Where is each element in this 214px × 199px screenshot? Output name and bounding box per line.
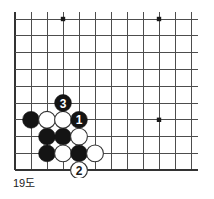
stone-disc [71,145,88,162]
stone-disc [23,111,40,128]
go-diagram-figure: 312 19도 [0,0,214,199]
go-board-canvas[interactable]: 312 [0,0,214,178]
star-point [61,17,65,21]
go-stone-white[interactable] [39,111,56,128]
move-number-label: 2 [76,164,83,178]
go-stone-white[interactable] [55,145,72,162]
go-stone-black[interactable] [39,145,56,162]
stone-disc [71,128,88,145]
stone-disc [55,111,72,128]
star-point [157,118,161,122]
go-stone-white-move-2[interactable]: 2 [71,162,88,178]
go-stone-white[interactable] [55,111,72,128]
stone-disc [39,111,56,128]
figure-caption: 19도 [13,177,35,190]
stone-disc [55,145,72,162]
go-stone-white[interactable] [71,128,88,145]
go-stone-black-move-3[interactable]: 3 [55,95,72,112]
go-stone-black[interactable] [23,111,40,128]
move-number-label: 1 [76,113,83,127]
go-board[interactable]: 312 [0,0,214,178]
go-stone-black[interactable] [55,128,72,145]
star-point [157,17,161,21]
go-stone-black[interactable] [71,145,88,162]
stone-disc [39,128,56,145]
stone-disc [87,145,104,162]
stone-disc [39,145,56,162]
stone-disc [55,128,72,145]
go-stone-white[interactable] [87,145,104,162]
move-number-label: 3 [60,97,67,111]
go-stone-black[interactable] [39,128,56,145]
go-stone-black-move-1[interactable]: 1 [71,111,88,128]
